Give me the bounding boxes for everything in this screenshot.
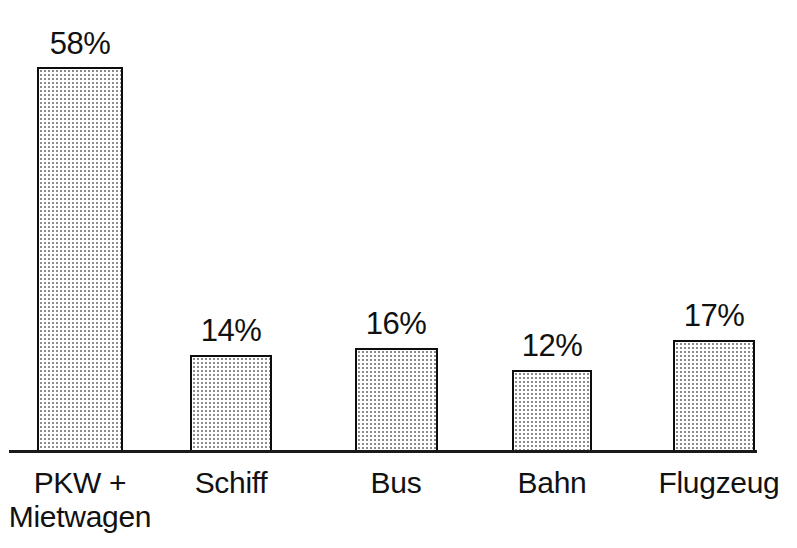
category-label-line1: Bahn: [518, 466, 587, 499]
category-label-line2: Mietwagen: [0, 500, 160, 534]
category-label-schiff: Schiff: [161, 466, 301, 500]
value-label-schiff: 14%: [181, 315, 281, 346]
bar-flugzeug: [673, 340, 755, 452]
category-label-bus: Bus: [326, 466, 466, 500]
value-label-pkw-mietwagen: 58%: [30, 28, 130, 59]
category-label-line1: Bus: [371, 466, 422, 499]
value-label-bus: 16%: [346, 308, 446, 339]
category-label-line1: Schiff: [195, 466, 268, 499]
value-label-flugzeug: 17%: [664, 300, 764, 331]
value-label-bahn: 12%: [502, 330, 602, 361]
category-label-pkw-mietwagen: PKW + Mietwagen: [0, 466, 160, 534]
bar-bus: [355, 348, 438, 452]
x-axis-baseline: [9, 450, 757, 453]
category-label-line1: PKW +: [34, 466, 127, 499]
category-label-flugzeug: Flugzeug: [644, 466, 794, 500]
category-label-line1: Flugzeug: [658, 466, 779, 499]
bar-pkw-mietwagen: [37, 67, 123, 452]
category-label-bahn: Bahn: [482, 466, 622, 500]
bar-schiff: [190, 355, 272, 452]
bar-chart: 58% 14% 16% 12% 17% PKW + Mietwagen Schi…: [0, 0, 797, 548]
bar-bahn: [512, 370, 592, 452]
